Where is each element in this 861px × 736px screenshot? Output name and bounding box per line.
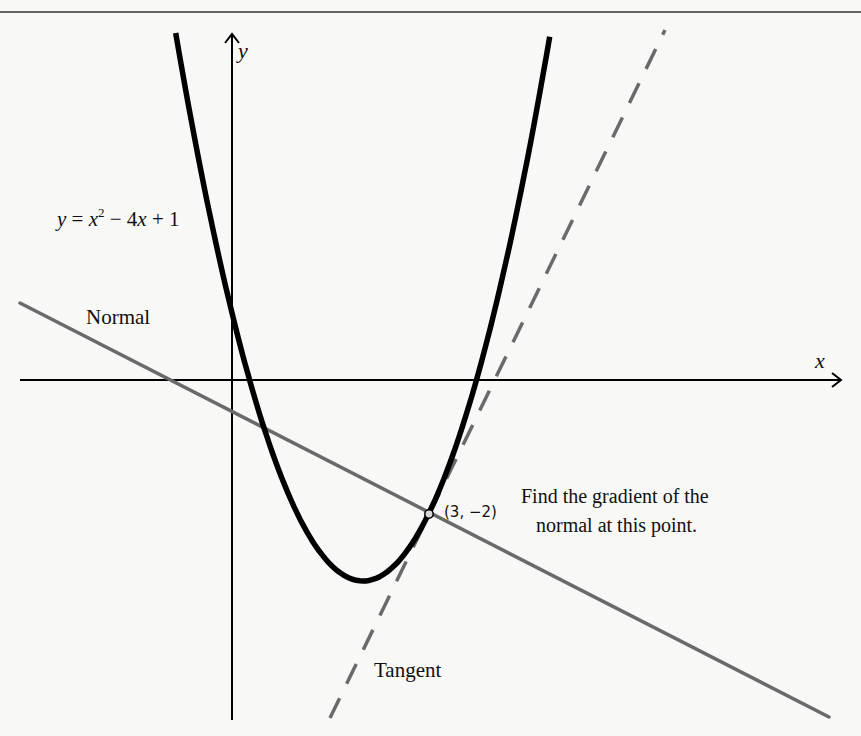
graph-figure: y x y = x2 − 4x + 1 Normal Tangent (3, −…	[0, 0, 861, 736]
y-axis-label: y	[236, 38, 248, 63]
point-marker	[425, 510, 433, 518]
x-axis	[20, 373, 841, 387]
curve-equation-label: y = x2 − 4x + 1	[55, 205, 180, 231]
normal-label: Normal	[86, 305, 150, 329]
y-axis	[225, 34, 239, 720]
tangent-label: Tangent	[374, 658, 442, 682]
point-label: (3, −2)	[444, 503, 497, 521]
tangent-line	[330, 30, 665, 718]
question-line-2: normal at this point.	[536, 514, 697, 537]
question-line-1: Find the gradient of the	[521, 485, 709, 508]
x-axis-label: x	[814, 348, 825, 373]
normal-line	[20, 303, 829, 717]
